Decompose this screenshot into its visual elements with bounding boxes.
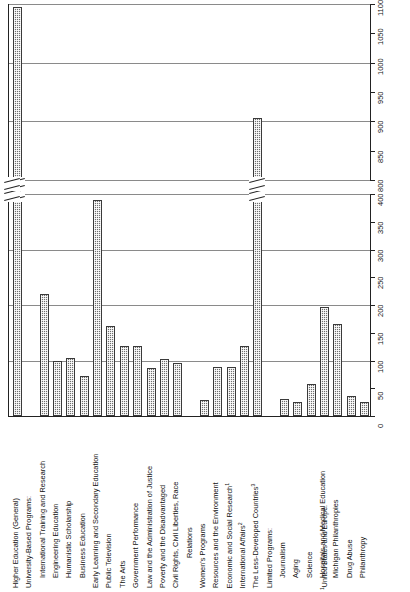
- bar-break-mark: [249, 177, 265, 191]
- bar: [333, 324, 342, 416]
- gridline: [9, 180, 371, 181]
- bar-upper-segment: [253, 118, 262, 180]
- category-label: Early Learning and Secondary Education: [92, 454, 100, 588]
- bar: [80, 376, 89, 416]
- bar: [253, 194, 262, 416]
- chart-page: 0501001502002503003504008008509009501000…: [0, 0, 410, 592]
- category-label: Journalism: [279, 542, 287, 588]
- category-label: Science: [306, 552, 314, 588]
- upper-bars: [9, 4, 371, 180]
- category-label: Philanthropy: [359, 537, 367, 588]
- bar: [93, 200, 102, 416]
- axis-tick-label: 100: [377, 360, 385, 373]
- category-label: Poverty and the Disadvantaged: [159, 485, 167, 588]
- axis-tick-label: 300: [377, 249, 385, 262]
- axis-break-mark: [4, 177, 20, 191]
- category-label: The Arts: [119, 560, 127, 588]
- axis-tick: [370, 416, 375, 417]
- category-label: University-Based Programs:: [25, 496, 33, 588]
- bar: [13, 194, 22, 416]
- axis-tick-label: 1050: [377, 29, 385, 46]
- bar: [293, 402, 302, 416]
- bar: [160, 359, 169, 416]
- category-label: Relations: [186, 527, 194, 580]
- bar-upper-segment: [13, 7, 22, 180]
- bar: [360, 402, 369, 416]
- category-label: Limited Programs:: [266, 528, 274, 588]
- axis-spine: [370, 194, 371, 416]
- category-label: Civil Rights, Civil Liberties, Race: [172, 482, 180, 588]
- axis-tick-label: 850: [377, 150, 385, 163]
- category-labels: Higher Education (General)University-Bas…: [0, 418, 410, 592]
- plot-area: [8, 4, 380, 416]
- bar: [53, 361, 62, 417]
- bar: [280, 399, 289, 416]
- bar: [120, 346, 129, 416]
- axis-tick: [370, 180, 375, 181]
- bar: [66, 358, 75, 416]
- axis-tick-label: 950: [377, 91, 385, 104]
- axis-tick-label: 1000: [377, 58, 385, 75]
- value-axis: 0501001502002503003504008008509009501000…: [370, 4, 410, 416]
- label-footnote-marker: 2: [236, 522, 242, 525]
- axis-tick-label: 900: [377, 121, 385, 134]
- category-label: Economic and Social Research1: [222, 482, 233, 588]
- bar: [133, 346, 142, 416]
- bar: [213, 367, 222, 416]
- bar: [240, 346, 249, 416]
- bar: [347, 396, 356, 416]
- category-label: International Affairs2: [235, 522, 246, 588]
- category-label: Michigan Philanthropies: [332, 500, 340, 588]
- axis-spine: [370, 4, 371, 180]
- category-label: Public Television: [105, 533, 113, 588]
- label-footnote-marker: 3: [250, 483, 256, 486]
- label-footnote-marker: 1: [223, 482, 229, 485]
- category-label: Business Education: [79, 513, 87, 588]
- axis-tick-label: 1100: [377, 0, 385, 16]
- footnote: 1United States and Europe.: [318, 505, 329, 590]
- bar: [173, 363, 182, 416]
- axis-tick-label: 50: [377, 392, 385, 400]
- category-label: Law and the Administration of Justice: [146, 466, 154, 588]
- category-label: Government Performance: [132, 503, 140, 588]
- category-label: Women's Programs: [199, 523, 207, 588]
- lower-bars: [9, 194, 371, 416]
- bar: [307, 384, 316, 416]
- category-label: Higher Education (General): [12, 498, 20, 588]
- footnote-text: United States and Europe.: [321, 505, 328, 587]
- axis-tick-label: 250: [377, 277, 385, 290]
- plot-panel-lower: [8, 194, 371, 417]
- category-label: Resources and the Environment: [212, 482, 220, 588]
- bar: [320, 307, 329, 416]
- bar: [40, 294, 49, 416]
- footnote-marker: 1: [319, 587, 325, 590]
- axis-tick-label: 350: [377, 221, 385, 234]
- axis-tick-label: 150: [377, 332, 385, 345]
- bar: [200, 400, 209, 416]
- category-label: International Training and Research: [39, 461, 47, 588]
- bar: [106, 326, 115, 416]
- category-label: Aging: [292, 559, 300, 588]
- plot-panel-upper: [8, 4, 371, 180]
- axis-tick-label: 400: [377, 193, 385, 206]
- axis-tick-label: 200: [377, 304, 385, 317]
- bar: [227, 367, 236, 416]
- bar: [147, 368, 156, 416]
- category-label: The Less-Developed Countries3: [249, 483, 260, 588]
- category-label: Drug Abuse: [346, 539, 354, 588]
- axis-tick-label: 800: [377, 179, 385, 192]
- category-label: Humanistic Scholarship: [65, 501, 73, 588]
- category-label: Engineering Education: [52, 504, 60, 588]
